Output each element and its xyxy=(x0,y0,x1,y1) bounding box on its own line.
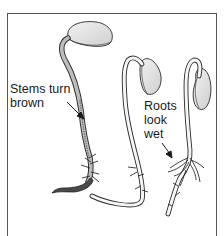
middle-stem xyxy=(92,58,143,205)
right-seed xyxy=(193,68,211,109)
roots-arrow xyxy=(162,143,172,158)
stems-label: Stems turn brown xyxy=(10,82,70,110)
left-seed xyxy=(68,22,113,47)
roots-label: Roots look wet xyxy=(144,99,177,141)
seedling-illustration xyxy=(0,0,224,236)
